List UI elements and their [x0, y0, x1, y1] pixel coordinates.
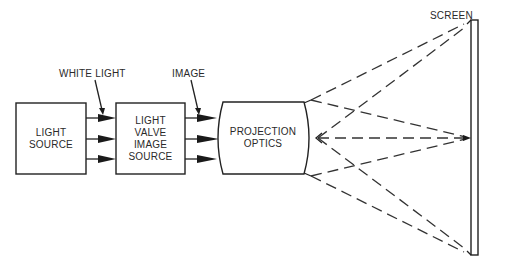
ray-hit-icon	[463, 135, 471, 141]
light-valve-label-line1: LIGHT	[135, 115, 165, 126]
image-arrows	[185, 114, 219, 163]
image-label: IMAGE	[172, 68, 205, 79]
arrow-head-icon	[98, 114, 116, 122]
white-light-label: WHITE LIGHT	[59, 68, 126, 79]
light-valve-label-line2: VALVE	[135, 127, 167, 138]
light-valve-label-line3: IMAGE	[134, 139, 167, 150]
arrow-head-icon	[197, 155, 217, 163]
pointer-arrow-icon	[195, 108, 201, 115]
screen-label: SCREEN	[430, 10, 473, 21]
light-valve-block: LIGHT VALVE IMAGE SOURCE	[116, 103, 185, 174]
arrow-head-icon	[197, 135, 219, 143]
light-source-label-line1: LIGHT	[36, 127, 66, 138]
projection-system-diagram: LIGHT SOURCE WHITE LIGHT LIGHT VALVE IMA…	[0, 0, 509, 269]
pointer-arrow-icon	[99, 108, 105, 115]
arrow-head-icon	[98, 135, 116, 143]
projection-optics-label-line1: PROJECTION	[230, 126, 296, 137]
light-valve-label-line4: SOURCE	[129, 151, 173, 162]
projected-rays	[311, 24, 466, 252]
projection-optics-block: PROJECTION OPTICS	[218, 102, 309, 174]
light-source-block: LIGHT SOURCE	[16, 103, 86, 174]
light-source-label-line2: SOURCE	[29, 139, 73, 150]
arrow-head-icon	[98, 155, 116, 163]
projection-optics-label-line2: OPTICS	[244, 138, 283, 149]
arrow-head-icon	[197, 114, 217, 122]
white-light-arrows	[86, 114, 116, 163]
screen: SCREEN	[430, 10, 478, 255]
